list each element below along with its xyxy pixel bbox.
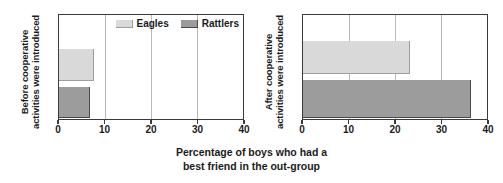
x-axis-title-line1: Percentage of boys who had a — [0, 146, 503, 160]
panel-before-axis-label-line1: Before cooperative — [19, 30, 30, 114]
x-axis-ticks-before: 010203040 — [58, 120, 244, 136]
tick-label-0: 0 — [55, 124, 61, 135]
panel-before-axis-label: Before cooperative activities were intro… — [12, 10, 48, 134]
plot-area-after — [302, 14, 488, 120]
gridline-10 — [105, 15, 106, 119]
legend-label-rattlers: Rattlers — [202, 18, 239, 29]
tick-label-10: 10 — [99, 124, 110, 135]
legend-label-eagles: Eagles — [137, 18, 169, 29]
gridline-20 — [151, 15, 152, 119]
legend-item-eagles: Eagles — [116, 18, 169, 29]
legend-swatch-rattlers-icon — [181, 20, 198, 28]
bar-after-eagles — [303, 41, 410, 74]
tick-label-40: 40 — [482, 124, 493, 135]
plot-area-before: Eagles Rattlers — [58, 14, 244, 120]
figure-root: Before cooperative activities were intro… — [0, 0, 503, 183]
tick-label-20: 20 — [389, 124, 400, 135]
panel-after-axis-label-line2: activities were introduced — [274, 15, 285, 129]
tick-label-40: 40 — [238, 124, 249, 135]
tick-label-20: 20 — [145, 124, 156, 135]
gridline-30 — [197, 15, 198, 119]
legend-item-rattlers: Rattlers — [181, 18, 239, 29]
panel-before-axis-label-line2: activities were introduced — [30, 15, 41, 129]
tick-label-30: 30 — [436, 124, 447, 135]
x-axis-title-line2: best friend in the out-group — [0, 160, 503, 174]
tick-label-10: 10 — [343, 124, 354, 135]
panel-after-axis-label: After cooperative activities were introd… — [256, 10, 292, 134]
x-axis-title: Percentage of boys who had a best friend… — [0, 146, 503, 173]
chart-panel-after: After cooperative activities were introd… — [252, 0, 497, 150]
tick-label-0: 0 — [299, 124, 305, 135]
legend-swatch-eagles-icon — [116, 20, 133, 28]
bar-before-eagles — [59, 49, 94, 81]
tick-label-30: 30 — [192, 124, 203, 135]
panel-after-axis-label-line1: After cooperative — [263, 34, 274, 110]
x-axis-ticks-after: 010203040 — [302, 120, 488, 136]
chart-panel-before: Before cooperative activities were intro… — [6, 0, 251, 150]
bar-after-rattlers — [303, 80, 471, 118]
bar-before-rattlers — [59, 87, 90, 118]
legend: Eagles Rattlers — [116, 18, 240, 29]
